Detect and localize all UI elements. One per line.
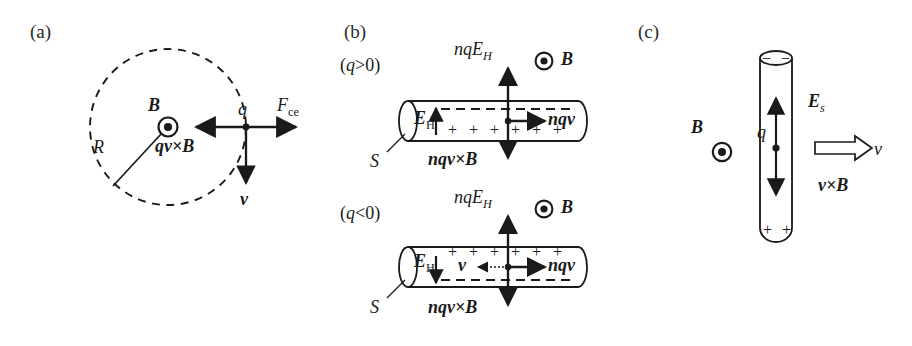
lorentz-symbol: qv×B xyxy=(155,136,194,156)
b-field-circle-dot-icon-c xyxy=(713,143,731,161)
cond-pos-q: q xyxy=(346,55,355,75)
panel-c-b-label: B xyxy=(691,118,703,136)
panel-b-positive-condition: (q>0) xyxy=(340,56,380,74)
cond-neg-rest: <0) xyxy=(355,203,380,223)
nqe-pos-sub: H xyxy=(483,49,492,63)
eh-neg-sub: H xyxy=(426,261,435,275)
es-symbol: E xyxy=(808,91,820,111)
panel-b-negative-nqv-label: nqv xyxy=(548,256,575,274)
surface-leader-line-positive xyxy=(387,134,405,152)
panel-a-charge-label: q xyxy=(238,100,247,118)
physics-figure: (a) B R q Fce qv×B v (b) (q>0) nqEH B EH… xyxy=(0,0,912,346)
cond-neg-q: q xyxy=(346,203,355,223)
panel-b-negative-b-label: B xyxy=(561,198,573,216)
panel-b-positive-nq-hall-label: nqEH xyxy=(454,40,492,62)
panel-c-graphics xyxy=(713,51,872,242)
panel-b-tag: (b) xyxy=(344,22,366,41)
eh-neg-symbol: E xyxy=(414,251,426,271)
panel-c-charge-label: q xyxy=(757,123,766,141)
panel-a-centrifugal-force-label: Fce xyxy=(277,96,299,118)
charge-point-c xyxy=(772,144,779,151)
panel-a-radius-label: R xyxy=(93,138,104,156)
surface-leader-line-negative xyxy=(387,280,405,298)
panel-b-positive-b-label: B xyxy=(561,50,573,68)
panel-c-es-label: Es xyxy=(808,92,825,114)
panel-a-tag: (a) xyxy=(30,22,51,41)
panel-b-negative-nq-hall-label: nqEH xyxy=(454,188,492,210)
hollow-arrow-icon xyxy=(815,136,872,160)
cond-pos-rest: >0) xyxy=(355,55,380,75)
panel-a-velocity-label: v xyxy=(240,190,248,208)
panel-b-positive-hall-field-label: EH xyxy=(414,109,435,131)
panel-b-positive-surface-label: S xyxy=(370,152,379,170)
panel-c-vxb-label: v×B xyxy=(818,176,848,194)
fce-symbol: F xyxy=(277,95,288,115)
panel-a-b-label: B xyxy=(148,96,160,114)
panel-c-tag: (c) xyxy=(638,22,659,41)
panel-b-positive-nqvxb-label: nqv×B xyxy=(428,150,477,168)
nqe-neg-symbol: nqE xyxy=(454,187,483,207)
eh-pos-symbol: E xyxy=(414,108,426,128)
panel-c-velocity-label: v xyxy=(874,140,882,158)
b-field-circle-dot-icon-positive xyxy=(536,53,553,70)
b-field-circle-dot-icon-negative xyxy=(536,201,553,218)
panel-b-negative-v-label: v xyxy=(458,256,466,274)
eh-pos-sub: H xyxy=(426,118,435,132)
panel-b-positive-graphics xyxy=(387,53,587,158)
es-sub: s xyxy=(820,101,825,115)
panel-b-positive-nqv-label: nqv xyxy=(548,110,575,128)
panel-b-negative-hall-field-label: EH xyxy=(414,252,435,274)
panel-b-negative-condition: (q<0) xyxy=(340,204,380,222)
panel-b-negative-nqvxb-label: nqv×B xyxy=(428,298,477,316)
nqe-pos-symbol: nqE xyxy=(454,39,483,59)
panel-a-graphics xyxy=(90,49,296,205)
panel-a-lorentz-label: qv×B xyxy=(155,137,194,155)
carrier-point-negative xyxy=(505,264,511,270)
panel-c-charge-bottom: + + xyxy=(763,222,794,238)
panel-b-negative-surface-label: S xyxy=(370,298,379,316)
panel-c-charge-top: − − xyxy=(762,51,793,67)
nqe-neg-sub: H xyxy=(483,197,492,211)
fce-subscript: ce xyxy=(288,105,299,119)
